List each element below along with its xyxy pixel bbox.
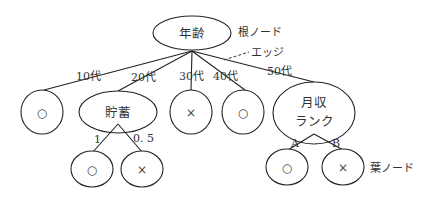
- node-savings-1: ○: [71, 151, 113, 187]
- circle-mark-icon: ○: [37, 106, 47, 120]
- edge-label-savings-05: 0. 5: [133, 132, 154, 145]
- node-income-b: ×: [322, 149, 364, 185]
- circle-mark-icon: ○: [87, 163, 97, 177]
- node-income-rank: 月収 ランク: [273, 82, 355, 144]
- node-savings: 貯蓄: [79, 91, 157, 133]
- edge-10s: [44, 51, 192, 90]
- root-node: 年齢: [153, 16, 231, 50]
- node-income-a: ○: [266, 149, 308, 185]
- node-10s: ○: [21, 90, 63, 134]
- edge-annotation-pointer: [224, 52, 249, 60]
- node-savings-05: ×: [121, 151, 163, 187]
- edge-label-savings-1: 1: [94, 133, 101, 146]
- edge-label-20s: 20代: [131, 71, 156, 84]
- root-node-label: 年齢: [179, 26, 205, 41]
- node-savings-label: 貯蓄: [105, 105, 131, 120]
- root-node-annotation: 根ノード: [238, 25, 282, 39]
- edge-label-income-a: A: [290, 137, 300, 150]
- edge-label-40s: 40代: [213, 70, 238, 83]
- decision-tree-diagram: エッジ 年齢 根ノード 10代 20代 30代 40代 50代 ○ 貯蓄 × ○…: [0, 0, 433, 200]
- node-income-rank-label-line1: 月収: [301, 95, 327, 110]
- edge-label-50s: 50代: [267, 65, 292, 78]
- circle-mark-icon: ○: [238, 106, 248, 120]
- cross-mark-icon: ×: [137, 163, 147, 177]
- edge-label-10s: 10代: [76, 70, 101, 83]
- leaf-node-annotation: 葉ノード: [370, 161, 414, 175]
- edge-label-30s: 30代: [179, 70, 204, 83]
- edge-annotation: エッジ: [251, 46, 284, 59]
- node-income-rank-shape: [273, 82, 355, 144]
- cross-mark-icon: ×: [338, 161, 348, 175]
- circle-mark-icon: ○: [282, 161, 292, 175]
- node-30s: ×: [170, 90, 212, 134]
- node-40s: ○: [222, 90, 264, 134]
- edge-label-income-b: B: [332, 137, 340, 150]
- node-income-rank-label-line2: ランク: [295, 114, 334, 129]
- cross-mark-icon: ×: [186, 106, 196, 120]
